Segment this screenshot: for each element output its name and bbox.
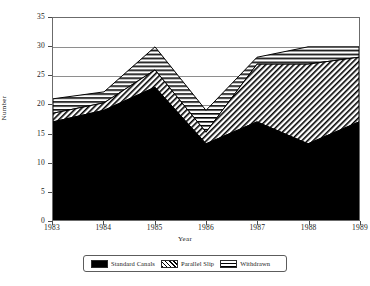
x-axis-tick-mark: [206, 221, 207, 225]
legend-label-standard-canals: Standard Canals: [111, 260, 155, 267]
solid-black-swatch: [91, 260, 108, 268]
x-axis-tick-mark: [155, 221, 156, 225]
x-axis-tick-label: 1983: [30, 224, 74, 232]
x-axis-tick-label: 1989: [338, 224, 370, 232]
horizontal-hatch-swatch: [220, 260, 237, 268]
x-axis-tick-mark: [360, 221, 361, 225]
y-axis-tick-label: 25: [5, 71, 45, 79]
x-axis-tick-mark: [103, 221, 104, 225]
y-axis-tick-label: 30: [5, 42, 45, 50]
legend-label-withdrawn: Withdrawn: [240, 260, 270, 267]
diagonal-hatch-swatch: [161, 260, 178, 268]
x-axis-tick-mark: [309, 221, 310, 225]
x-axis-tick-label: 1986: [184, 224, 228, 232]
x-axis-tick-label: 1987: [235, 224, 279, 232]
y-axis-tick-label: 35: [5, 13, 45, 21]
legend-item-withdrawn[interactable]: Withdrawn: [220, 260, 270, 268]
x-axis-tick-label: 1988: [287, 224, 331, 232]
legend-item-parallel-slip[interactable]: Parallel Slip: [161, 260, 214, 268]
x-axis-tick-label: 1984: [81, 224, 125, 232]
x-axis-tick-mark: [257, 221, 258, 225]
plot-area: [52, 17, 360, 221]
x-axis-tick-label: 1985: [133, 224, 177, 232]
y-axis-tick-label: 20: [5, 100, 45, 108]
x-axis-title: Year: [0, 235, 370, 243]
y-axis-title: Number: [0, 96, 8, 121]
x-axis-tick-mark: [52, 221, 53, 225]
area-series-group: [53, 18, 359, 220]
y-axis-tick-label: 10: [5, 159, 45, 167]
chart-legend: Standard Canals Parallel Slip Withdrawn: [83, 255, 287, 272]
legend-label-parallel-slip: Parallel Slip: [181, 260, 214, 267]
y-axis-tick-label: 5: [5, 188, 45, 196]
stacked-area-chart: Number 05101520253035 198319841985198619…: [0, 0, 370, 286]
legend-item-standard-canals[interactable]: Standard Canals: [91, 260, 155, 268]
y-axis-tick-label: 15: [5, 130, 45, 138]
